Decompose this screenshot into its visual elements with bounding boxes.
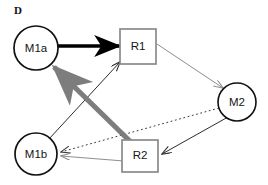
node-r2[interactable]: R2 <box>122 140 158 172</box>
node-layer: M1a R1 M2 M1b R2 <box>14 26 256 175</box>
node-r1-label: R1 <box>131 40 146 52</box>
node-m2[interactable]: M2 <box>218 83 256 121</box>
edge-r1-to-m2 <box>157 44 223 88</box>
node-m2-label: M2 <box>229 96 245 108</box>
node-r1[interactable]: R1 <box>120 29 156 64</box>
edge-m2-to-r2 <box>162 117 228 154</box>
node-m1b[interactable]: M1b <box>15 133 57 175</box>
node-r2-label: R2 <box>133 149 148 161</box>
node-m1b-label: M1b <box>25 148 47 160</box>
diagram-figure: D <box>0 0 268 185</box>
network-diagram: M1a R1 M2 M1b R2 <box>0 0 268 185</box>
node-m1a-label: M1a <box>25 42 48 54</box>
edge-r2-to-m1b <box>61 156 124 161</box>
node-m1a[interactable]: M1a <box>14 26 58 70</box>
